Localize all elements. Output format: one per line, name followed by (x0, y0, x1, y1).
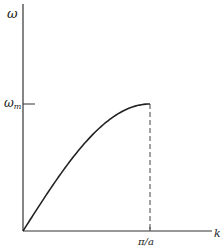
dispersion-chart: ω ωm k π/a (0, 0, 224, 249)
y-tick-label-subscript: m (14, 102, 22, 111)
y-axis-label: ω (7, 7, 18, 20)
y-tick-label-main: ω (4, 96, 14, 110)
chart-canvas (0, 0, 224, 249)
x-tick-label: π/a (138, 237, 154, 247)
y-tick-label: ωm (4, 97, 21, 111)
x-axis-label: k (214, 228, 221, 239)
dispersion-curve (23, 104, 150, 231)
